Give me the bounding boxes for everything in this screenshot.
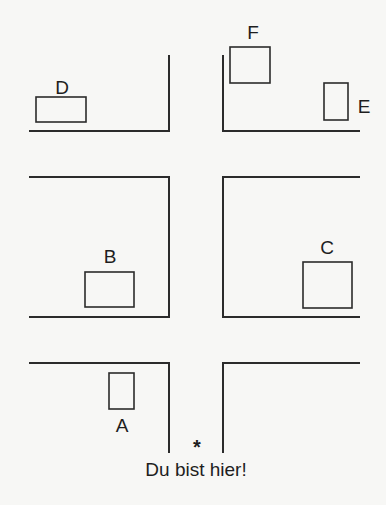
block-middle-right-edge <box>223 177 360 317</box>
label-building-b: B <box>104 247 117 266</box>
street-map-diagram: D F E B C A * Du bist hier! <box>0 0 386 505</box>
label-building-e: E <box>358 97 371 116</box>
label-building-a: A <box>116 416 129 435</box>
building-e <box>324 83 348 120</box>
building-d <box>36 97 86 122</box>
building-f <box>230 47 270 83</box>
building-a <box>109 373 134 409</box>
block-bottom-right-edge <box>223 363 360 453</box>
block-middle-left-edge <box>29 177 169 317</box>
building-b <box>85 272 134 307</box>
label-building-f: F <box>247 23 259 42</box>
label-building-c: C <box>320 238 334 257</box>
building-c <box>303 262 352 308</box>
block-bottom-left-edge <box>29 363 169 453</box>
you-are-here-label: Du bist hier! <box>145 459 246 481</box>
block-top-left-edge <box>29 55 169 131</box>
label-building-d: D <box>55 78 69 97</box>
you-are-here-marker: * <box>193 436 201 459</box>
